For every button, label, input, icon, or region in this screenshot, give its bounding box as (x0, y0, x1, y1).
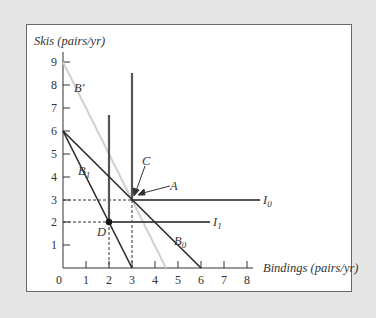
y-tick-5: 5 (51, 147, 57, 161)
y-tick-9: 9 (51, 55, 57, 69)
y-axis-label: Skis (pairs/yr) (34, 34, 105, 48)
annotation-arrows (133, 166, 170, 196)
y-ticks (63, 62, 70, 245)
label-b-prime: B′ (74, 81, 85, 95)
y-tick-7: 7 (51, 101, 57, 115)
y-tick-3: 3 (51, 193, 57, 207)
x-tick-3: 3 (129, 273, 135, 287)
label-point-d: D (96, 225, 106, 239)
x-tick-labels: 0 1 2 3 4 5 6 7 8 (56, 273, 250, 287)
x-tick-8: 8 (244, 273, 250, 287)
x-axis-label: Bindings (pairs/yr) (263, 261, 358, 275)
indifference-curve-i1 (109, 115, 210, 222)
y-tick-4: 4 (51, 170, 57, 184)
x-tick-6: 6 (198, 273, 204, 287)
x-tick-2: 2 (106, 273, 112, 287)
y-tick-2: 2 (51, 215, 57, 229)
label-point-a: A (169, 179, 178, 193)
label-i0: I0 (262, 193, 272, 209)
budget-indifference-diagram: 1 2 3 4 5 6 7 8 9 0 1 2 3 4 5 6 7 8 Skis… (0, 0, 376, 318)
origin-label: 0 (56, 273, 62, 287)
y-tick-labels: 1 2 3 4 5 6 7 8 9 (51, 55, 57, 252)
x-tick-5: 5 (175, 273, 181, 287)
point-d-marker (106, 219, 112, 225)
indifference-curve-i0 (132, 73, 260, 200)
label-point-c: C (142, 154, 151, 168)
label-i1: I1 (212, 215, 222, 231)
x-tick-1: 1 (83, 273, 89, 287)
label-b1: B1 (78, 164, 90, 180)
y-tick-6: 6 (51, 124, 57, 138)
y-tick-8: 8 (51, 78, 57, 92)
x-tick-4: 4 (152, 273, 158, 287)
x-tick-7: 7 (221, 273, 227, 287)
y-tick-1: 1 (51, 238, 57, 252)
label-b0: B0 (174, 234, 187, 250)
